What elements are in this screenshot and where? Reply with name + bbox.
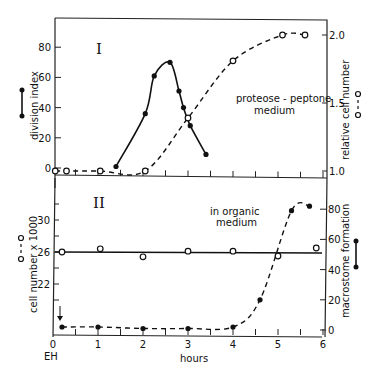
- panel-2-annotation: in organic: [210, 206, 259, 217]
- svg-text:40: 40: [328, 265, 341, 276]
- macrostome-point: [59, 324, 64, 329]
- cell-count-point: [140, 254, 146, 260]
- panel-1-right-axis-label: relative cell number: [340, 59, 351, 160]
- macrostome-point: [140, 326, 145, 331]
- svg-text:0: 0: [50, 339, 56, 350]
- panel-1-annotation: proteose - peptone: [236, 93, 331, 104]
- macrostome-point: [185, 326, 190, 331]
- svg-text:60: 60: [328, 234, 341, 245]
- macrostome-formation-line: [62, 203, 310, 330]
- cell-number-point: [185, 115, 191, 121]
- cell-count-point: [185, 248, 191, 254]
- svg-text:26: 26: [37, 247, 50, 258]
- svg-text:0: 0: [45, 163, 51, 174]
- panel-1-bottom-axis: [55, 175, 327, 178]
- svg-text:1: 1: [95, 339, 101, 350]
- panel-1: 020406080 1.01.52.0 I division index rel…: [20, 18, 361, 188]
- svg-text:20: 20: [38, 133, 51, 144]
- division-index-point: [176, 88, 181, 93]
- panel-1-left-ticks: 020406080: [38, 42, 61, 174]
- svg-text:20: 20: [328, 295, 341, 306]
- svg-text:2.0: 2.0: [329, 30, 345, 41]
- svg-text:4: 4: [230, 339, 236, 350]
- svg-text:0: 0: [328, 325, 334, 336]
- panel-2-right-ticks: 020406080: [320, 204, 341, 336]
- panel-1-annotation-2: medium: [254, 105, 295, 116]
- x-axis-label: hours: [180, 353, 208, 364]
- macrostome-point: [230, 324, 235, 329]
- svg-text:22: 22: [37, 279, 50, 290]
- svg-text:5: 5: [275, 339, 281, 350]
- cell-count-point: [230, 248, 236, 254]
- panel-2-points: [59, 204, 319, 332]
- cell-count-point: [313, 245, 319, 251]
- svg-text:60: 60: [38, 72, 51, 83]
- division-index-point: [167, 60, 172, 65]
- svg-text:3: 3: [185, 339, 191, 350]
- filled-dot-dashed-legend-icon: [354, 239, 359, 270]
- macrostome-point: [95, 324, 100, 329]
- cell-count-point: [275, 253, 281, 259]
- open-dot-solid-legend-icon: [19, 236, 24, 262]
- cell-number-point: [280, 32, 286, 38]
- division-index-point: [143, 111, 148, 116]
- panel-1-label: I: [96, 40, 102, 58]
- relative-cell-number-line: [55, 33, 305, 175]
- cell-number-point: [142, 168, 148, 174]
- cell-number-point: [97, 168, 103, 174]
- division-index-point: [181, 105, 186, 110]
- macrostome-point: [257, 297, 262, 302]
- panel-2: 0123456 222630 020406080 II cell number …: [19, 178, 359, 364]
- svg-text:2: 2: [140, 339, 146, 350]
- macrostome-point: [289, 208, 294, 213]
- panel-2-x-ticks: 0123456: [50, 329, 326, 350]
- panel-2-right-axis-label: macrostome formation: [340, 204, 351, 318]
- cell-count-point: [59, 249, 65, 255]
- macrostome-point: [307, 204, 312, 209]
- cell-number-point: [230, 58, 236, 64]
- division-index-point: [203, 152, 208, 157]
- division-index-point: [152, 73, 157, 78]
- division-index-line: [116, 62, 206, 167]
- panel-2-left-axis: [53, 178, 55, 337]
- cell-number-point: [64, 168, 70, 174]
- svg-text:30: 30: [37, 215, 50, 226]
- svg-text:6: 6: [320, 339, 326, 350]
- cell-count-point: [97, 246, 103, 252]
- panel-2-bottom-axis: [53, 335, 322, 337]
- cell-number-point: [52, 168, 58, 174]
- svg-text:80: 80: [328, 204, 341, 215]
- treatment-arrow-icon: [57, 306, 63, 321]
- figure: 020406080 1.01.52.0 I division index rel…: [0, 0, 376, 376]
- cell-number-point: [302, 32, 308, 38]
- svg-text:80: 80: [38, 42, 51, 53]
- svg-text:1.0: 1.0: [329, 166, 345, 177]
- panel-2-annotation-2: medium: [216, 217, 257, 228]
- division-index-point: [188, 123, 193, 128]
- origin-label: EH: [44, 351, 58, 362]
- panel-2-left-axis-label: cell number x 1000: [28, 216, 39, 313]
- svg-text:40: 40: [38, 103, 51, 114]
- panel-2-right-axis: [325, 178, 327, 337]
- filled-dot-solid-legend-icon: [20, 88, 25, 119]
- panel-2-label: II: [93, 194, 105, 212]
- division-index-point: [113, 164, 118, 169]
- open-dot-dashed-legend-icon: [356, 92, 361, 118]
- panel-1-left-axis-label: division index: [29, 71, 40, 140]
